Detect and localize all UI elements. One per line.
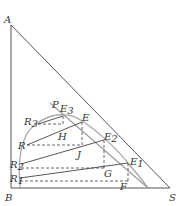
- tie-line-R2-E2: [21, 140, 104, 164]
- label-P: P: [51, 99, 59, 110]
- label-B: B: [4, 192, 12, 203]
- label-E3: E3: [59, 103, 74, 116]
- label-G: G: [104, 168, 112, 179]
- label-J: J: [75, 149, 82, 160]
- label-F: F: [119, 181, 128, 192]
- binodal-curve: [19, 115, 148, 188]
- label-R3: R3: [23, 116, 38, 129]
- label-S: S: [169, 192, 176, 203]
- label-H: H: [57, 131, 67, 142]
- label-E2: E2: [103, 131, 118, 144]
- label-R: R: [17, 140, 26, 151]
- triangle-frame: [11, 25, 170, 188]
- label-A: A: [3, 14, 11, 25]
- label-E: E: [81, 112, 90, 123]
- point-labels: ABSPE3ER3HE2RJE1R2GR1F: [3, 14, 176, 203]
- ternary-extraction-diagram: ABSPE3ER3HE2RJE1R2GR1F: [0, 0, 183, 206]
- triangle-edges: [11, 25, 170, 188]
